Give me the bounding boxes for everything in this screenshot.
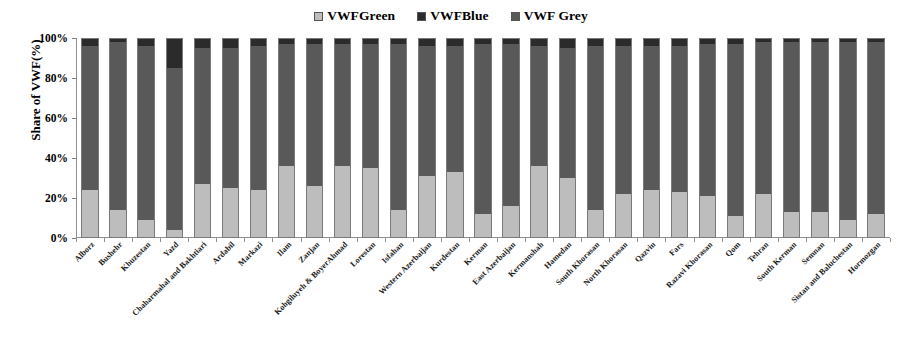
bar-outline [222,38,239,238]
bar-column [811,38,828,238]
x-axis-tick-label: Khuzestan [119,240,152,273]
bar-column [250,38,267,238]
bar-column [643,38,660,238]
stacked-bar-chart: VWFGreen VWFBlue VWF Grey Share of VWF(%… [0,0,902,352]
x-axis-tick-label: Western Azerbaijan [377,240,433,296]
y-axis-ticks: 0%20%40%60%80%100% [32,38,72,238]
bar-column [109,38,126,238]
x-axis-tick-label: Tehran [746,240,770,264]
x-axis-tick-label: Qazvin [633,240,657,264]
bar-outline [194,38,211,238]
y-axis-tick-label: 80% [45,72,68,84]
bar-outline [474,38,491,238]
legend-label-vwfblue: VWFBlue [430,8,488,24]
bar-column [137,38,154,238]
bar-column [839,38,856,238]
bar-outline [559,38,576,238]
bar-outline [446,38,463,238]
legend-entry-vwfblue: VWFBlue [417,8,488,24]
bar-outline [250,38,267,238]
bar-outline [867,38,884,238]
bar-column [278,38,295,238]
bar-outline [390,38,407,238]
legend-label-vwfgrey: VWF Grey [524,8,588,24]
bar-outline [839,38,856,238]
bar-column [222,38,239,238]
bar-outline [811,38,828,238]
bar-column [81,38,98,238]
x-axis-tick-label: Markazi [237,240,265,268]
legend-swatch-icon [314,12,323,21]
x-axis-tick-label: Kerman [462,240,489,267]
bar-column [390,38,407,238]
y-axis-tick-label: 40% [45,152,68,164]
bar-outline [109,38,126,238]
x-axis-labels: AlborzBushehrKhuzestanYazdChaharmahal an… [76,240,890,352]
bar-outline [137,38,154,238]
bar-column [446,38,463,238]
bar-column [194,38,211,238]
bar-outline [81,38,98,238]
bar-outline [362,38,379,238]
bar-column [334,38,351,238]
bar-column [783,38,800,238]
bar-column [587,38,604,238]
bar-column [474,38,491,238]
legend-swatch-icon [417,12,426,21]
bar-outline [502,38,519,238]
bar-outline [306,38,323,238]
bar-outline [530,38,547,238]
bar-column [615,38,632,238]
bar-column [502,38,519,238]
y-axis-tick-label: 0% [51,232,68,244]
y-axis-tick-label: 60% [45,112,68,124]
bar-outline [587,38,604,238]
x-axis-tick-label: Lorestan [348,240,377,269]
bar-outline [699,38,716,238]
bar-outline [166,38,183,238]
x-axis-tick-label: Ardabil [211,240,237,266]
bar-column [530,38,547,238]
y-axis-tick-label: 20% [45,192,68,204]
x-axis-tick-label: Bushehr [97,240,125,268]
y-axis-tick-label: 100% [39,32,68,44]
bar-column [418,38,435,238]
x-axis-tick-label: Yazd [162,240,181,259]
x-axis-tick-label: Qom [723,240,742,259]
x-axis-tick-label: Alborz [73,240,97,264]
legend-swatch-icon [511,12,520,21]
x-axis-tick-label: Isfahan [380,240,405,265]
bar-column [671,38,688,238]
x-axis-tick-label: Fars [668,240,686,258]
bar-outline [334,38,351,238]
bar-column [755,38,772,238]
bar-outline [418,38,435,238]
bar-outline [727,38,744,238]
x-axis-tick-label: Zanjan [296,240,321,265]
legend-entry-vwfgrey: VWF Grey [511,8,588,24]
bar-outline [615,38,632,238]
bar-outline [278,38,295,238]
x-axis-tick-label: Semnan [800,240,827,267]
bar-outline [783,38,800,238]
legend-entry-vwfgreen: VWFGreen [314,8,395,24]
bar-outline [755,38,772,238]
bar-column [727,38,744,238]
bar-column [699,38,716,238]
bar-outline [643,38,660,238]
bar-outline [671,38,688,238]
legend-label-vwfgreen: VWFGreen [327,8,395,24]
plot-area: 0%20%40%60%80%100% [76,38,890,238]
x-axis-tick-mark [890,238,891,242]
bar-column [306,38,323,238]
x-axis-tick-label: Ilam [275,240,293,258]
bar-column [559,38,576,238]
bar-column [867,38,884,238]
bar-column [166,38,183,238]
bar-series-container [76,38,890,238]
chart-legend: VWFGreen VWFBlue VWF Grey [0,8,902,24]
bar-column [362,38,379,238]
